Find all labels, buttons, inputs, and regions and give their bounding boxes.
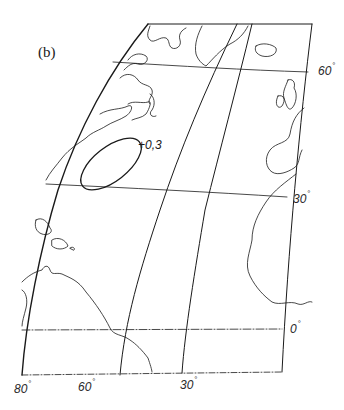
longitude-label-80: 80° [14,382,32,396]
contour-value-label: +0,3 [138,138,162,152]
latitude-label-0: 0° [290,322,301,336]
longitude-label-30: 30° [180,378,198,392]
panel-label: (b) [38,44,56,61]
meridian-30w [182,24,252,373]
map-figure: (b) +0,3 60° 30° 0° 80° 60° 30° [0,0,344,410]
parallel-60n [113,62,308,72]
coastlines [22,26,312,372]
meridian-60w [120,24,237,375]
frame-bottom-edge [22,372,282,375]
longitude-label-60: 60° [78,380,96,394]
equator [22,329,282,330]
latitude-label-30: 30° [293,192,311,206]
frame-left-edge [22,24,148,375]
latitude-label-60: 60° [318,64,336,78]
